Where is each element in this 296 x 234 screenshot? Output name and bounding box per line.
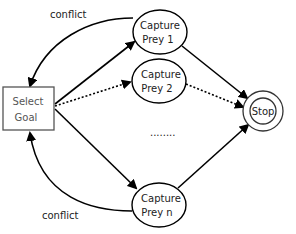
preyn-label-line1: Capture (141, 193, 181, 204)
edges (30, 18, 248, 211)
ellipsis-more-prey: ........ (150, 127, 175, 138)
node-capture-prey-n: Capture Prey n (132, 183, 186, 227)
prey1-label-line2: Prey 1 (142, 34, 173, 45)
edge-select-to-preyn (55, 109, 136, 188)
select-goal-label-line1: Select (13, 96, 44, 107)
edge-conflict-top (30, 18, 133, 86)
conflict-label-top: conflict (50, 9, 87, 20)
edge-prey1-to-stop (182, 46, 247, 98)
preyn-label-line2: Prey n (141, 207, 172, 218)
prey2-label-line2: Prey 2 (141, 83, 172, 94)
diagram-canvas: Select Goal Capture Prey 1 Capture Prey … (0, 0, 296, 234)
node-stop: Stop (243, 91, 283, 131)
node-select-goal: Select Goal (3, 87, 54, 130)
conflict-label-bottom: conflict (42, 210, 79, 221)
edge-select-to-prey1 (55, 42, 134, 104)
select-goal-label-line2: Goal (15, 112, 38, 123)
prey2-label-line1: Capture (141, 69, 181, 80)
edge-preyn-to-stop (178, 125, 248, 188)
edge-select-to-prey2 (55, 82, 130, 106)
edge-conflict-bottom (30, 133, 132, 211)
prey1-label-line1: Capture (140, 20, 180, 31)
stop-label: Stop (252, 106, 275, 117)
node-capture-prey-1: Capture Prey 1 (133, 10, 187, 54)
node-capture-prey-2: Capture Prey 2 (132, 59, 186, 103)
